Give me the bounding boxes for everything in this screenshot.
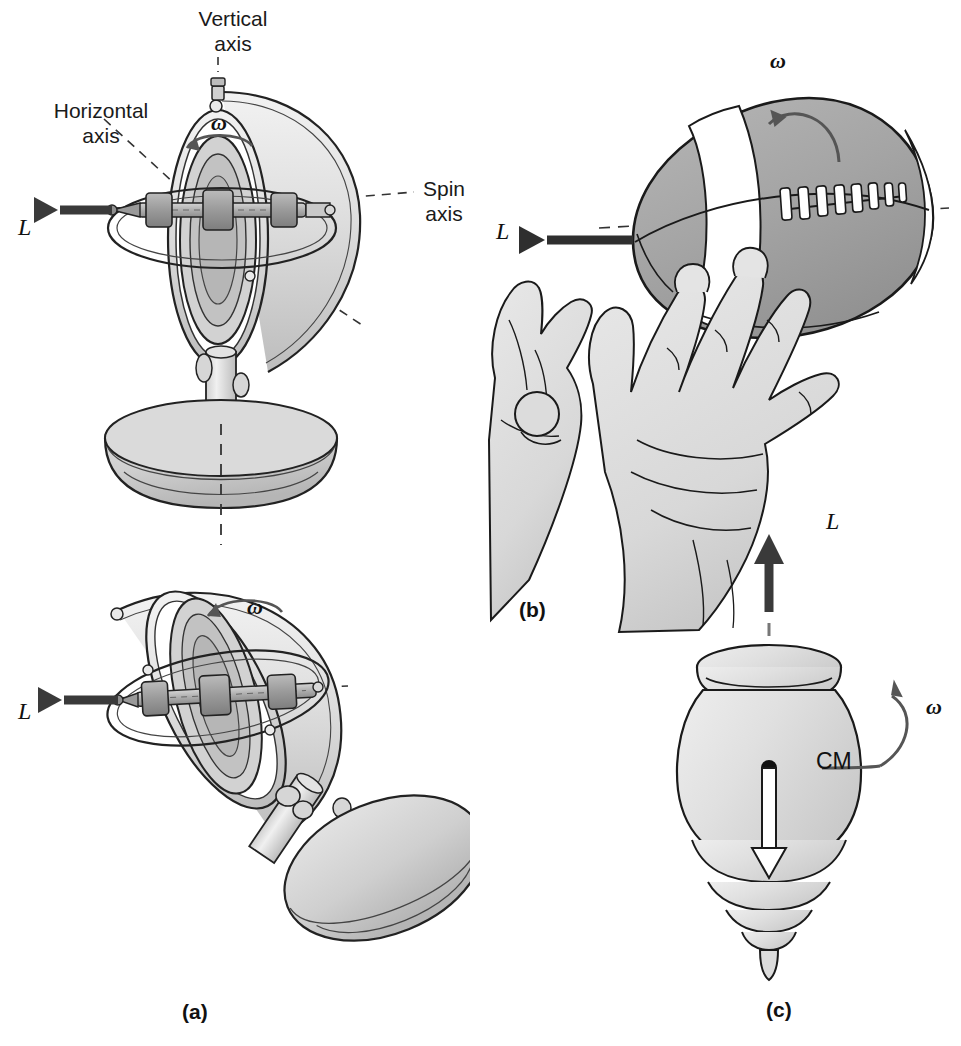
L-label-gyro-tilted: L [18,698,31,725]
spinning-top-illustration [630,500,960,1030]
pivot-right-tilted [313,682,323,692]
lace-2 [798,187,810,220]
top-pivot-screw-tilted [111,608,123,620]
horizontal-axis-label: Horizontal axis [26,98,176,148]
omega-label-gyro-tilted: ω [247,594,263,620]
lace-7 [884,183,894,207]
panel-label-a: (a) [182,1000,208,1024]
shaft-hub-center [203,190,233,230]
gyroscope-upright-illustration [0,0,470,560]
omega-arc-top-path [880,696,907,766]
omega-arrowhead-top [891,679,906,697]
top-ring-4 [742,932,796,950]
angular-momentum-arrow-tilted [38,687,118,713]
panel-label-c: (c) [766,998,792,1022]
top-ring-3 [726,910,812,932]
omega-label-top: ω [926,694,942,720]
fingertip-2 [733,248,767,278]
center-of-mass-label: CM [816,748,852,775]
L-label-gyro-upright: L [18,214,31,241]
top-ring-2 [708,882,830,910]
pivot-screw-lower-tilted [265,725,275,735]
lace-1 [780,188,792,221]
shaft-collar-left-tilted [141,681,169,716]
panel-label-b: (b) [519,598,546,622]
spin-axis-label: Spin axis [408,176,480,226]
L-label-top: L [826,508,839,535]
pivot-screw-upper-tilted [143,665,153,675]
pivot-right [325,205,335,215]
post-knuckle-right [233,373,249,397]
lace-8 [898,183,906,202]
physics-figure: Vertical axis Horizontal axis Spin axis … [0,0,961,1046]
lace-6 [868,183,879,210]
angular-momentum-arrow-top [754,534,784,612]
top-tip [760,950,778,980]
gyroscope-tilted-illustration [0,548,470,1018]
lace-3 [816,186,828,217]
post-top-cap [206,346,236,358]
angular-momentum-arrow-upright [34,197,112,223]
top-pivot-nut [212,86,224,100]
angular-momentum-arrow-football [519,226,633,254]
shaft-hub-center-tilted [199,675,231,717]
fingertip-1 [675,264,709,292]
post-knuckle-tilted-b [293,801,313,819]
L-label-football: L [496,218,509,245]
shaft-collar-left [146,193,172,227]
omega-label-gyro-upright: ω [211,110,227,136]
shaft-collar-right [271,193,297,227]
lace-5 [851,184,863,213]
post-knuckle-left [196,354,212,382]
shaft-collar-right-tilted [267,674,297,709]
top-pivot-cap [211,78,225,86]
hand-back-thumb-knuckle [515,392,559,436]
vertical-axis-label: Vertical axis [178,6,288,56]
lace-4 [834,185,846,215]
hand-back [489,282,592,620]
omega-label-football: ω [770,48,786,74]
lower-pivot-screw [245,271,255,281]
